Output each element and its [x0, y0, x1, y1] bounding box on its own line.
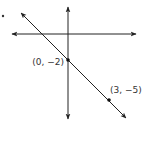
- point-second-label: (3, −5): [110, 85, 142, 95]
- point-y-intercept-label: (0, −2): [32, 57, 64, 67]
- point-second-dot: [107, 98, 111, 102]
- coordinate-graph: (0, −2) (3, −5): [0, 0, 149, 144]
- bullet-marker: [2, 15, 4, 17]
- point-y-intercept-dot: [66, 58, 70, 62]
